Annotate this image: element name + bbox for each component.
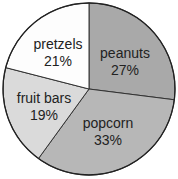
label-peanuts-pct: 27% bbox=[111, 62, 139, 78]
label-fruit-bars-pct: 19% bbox=[30, 107, 58, 123]
pie-chart: peanuts 27% popcorn 33% fruit bars 19% p… bbox=[0, 0, 178, 179]
label-popcorn-name: popcorn bbox=[83, 115, 134, 131]
pie-slices bbox=[3, 3, 175, 175]
label-fruit-bars-name: fruit bars bbox=[17, 90, 71, 106]
label-pretzels-name: pretzels bbox=[33, 36, 82, 52]
label-popcorn-pct: 33% bbox=[94, 132, 122, 148]
label-pretzels-pct: 21% bbox=[44, 53, 72, 69]
label-peanuts-name: peanuts bbox=[100, 45, 150, 61]
